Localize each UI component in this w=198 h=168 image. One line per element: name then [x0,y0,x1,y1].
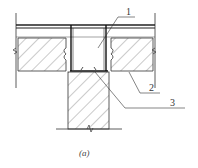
figure-caption: (a) [79,148,90,158]
lower-column [68,72,109,129]
left-slab [18,38,66,71]
label-3: 3 [170,97,175,108]
section-drawing: 1 2 3 (a) [0,0,198,168]
label-2: 2 [149,82,154,93]
label-1: 1 [126,6,131,17]
right-slab [111,38,153,71]
core-column [70,25,108,71]
